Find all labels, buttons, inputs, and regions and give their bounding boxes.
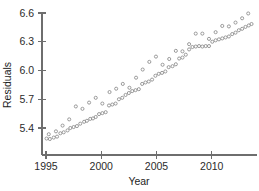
data-point bbox=[61, 124, 64, 127]
data-point bbox=[121, 96, 124, 99]
data-point bbox=[157, 72, 160, 75]
data-point bbox=[174, 49, 177, 52]
data-point bbox=[214, 39, 217, 42]
data-point bbox=[45, 137, 48, 140]
y-tick-label: 6.3 bbox=[19, 35, 34, 47]
data-point bbox=[181, 50, 184, 53]
data-point bbox=[52, 136, 55, 139]
data-point bbox=[104, 111, 107, 114]
data-point bbox=[128, 86, 131, 89]
data-point bbox=[154, 55, 157, 58]
data-point bbox=[211, 40, 214, 43]
data-point bbox=[214, 31, 217, 34]
y-tick-label: 5.4 bbox=[19, 122, 34, 134]
y-axis-title: Residuals bbox=[1, 62, 13, 108]
data-point bbox=[141, 82, 144, 85]
data-point bbox=[221, 24, 224, 27]
tick-labels-group: 5.45.76.06.36.61995200020052010 bbox=[19, 7, 223, 172]
data-point bbox=[59, 132, 62, 135]
data-point bbox=[108, 91, 111, 94]
data-point bbox=[224, 36, 227, 39]
data-point bbox=[241, 17, 244, 20]
y-tick-label: 6.0 bbox=[19, 64, 34, 76]
data-point bbox=[88, 101, 91, 104]
data-point bbox=[75, 125, 78, 128]
data-point bbox=[74, 105, 77, 108]
data-point bbox=[62, 131, 65, 134]
data-point bbox=[66, 129, 69, 132]
data-point bbox=[111, 103, 114, 106]
data-point bbox=[197, 45, 200, 48]
series-upper-band bbox=[47, 12, 250, 136]
x-tick-label: 2005 bbox=[145, 160, 169, 172]
x-axis-title: Year bbox=[128, 175, 150, 187]
axes-group bbox=[42, 12, 257, 155]
plot-canvas: 5.45.76.06.36.61995200020052010 Residual… bbox=[0, 0, 259, 191]
data-point bbox=[174, 63, 177, 66]
data-point bbox=[250, 22, 253, 25]
data-point bbox=[154, 74, 157, 77]
data-point bbox=[134, 89, 137, 92]
data-point bbox=[131, 90, 134, 93]
data-point bbox=[207, 45, 210, 48]
data-point bbox=[234, 31, 237, 34]
y-tick-label: 5.7 bbox=[19, 93, 34, 105]
data-point bbox=[201, 45, 204, 48]
data-point bbox=[231, 33, 234, 36]
data-point bbox=[178, 57, 181, 60]
data-point bbox=[184, 53, 187, 56]
scatter-plot-figure: 5.45.76.06.36.61995200020052010 Residual… bbox=[0, 0, 259, 191]
data-point bbox=[151, 78, 154, 81]
data-point bbox=[121, 82, 124, 85]
data-point bbox=[94, 96, 97, 99]
x-tick-label: 1995 bbox=[34, 160, 58, 172]
x-tick-label: 2010 bbox=[200, 160, 224, 172]
data-point bbox=[101, 112, 104, 115]
tick-marks-group bbox=[38, 13, 212, 159]
data-points-group bbox=[45, 12, 253, 141]
data-point bbox=[164, 70, 167, 73]
x-tick-label: 2000 bbox=[90, 160, 114, 172]
data-point bbox=[217, 38, 220, 41]
data-point bbox=[171, 65, 174, 68]
y-tick-label: 6.6 bbox=[19, 7, 34, 19]
data-point bbox=[167, 66, 170, 69]
data-point bbox=[194, 45, 197, 48]
data-point bbox=[68, 118, 71, 121]
data-point bbox=[181, 56, 184, 59]
data-point bbox=[201, 32, 204, 35]
data-point bbox=[79, 122, 82, 125]
data-point bbox=[227, 35, 230, 38]
data-point bbox=[54, 130, 57, 133]
data-point bbox=[115, 87, 118, 90]
data-point bbox=[241, 27, 244, 30]
data-point bbox=[221, 37, 224, 40]
data-point bbox=[101, 102, 104, 105]
data-point bbox=[194, 32, 197, 35]
data-point bbox=[204, 45, 207, 48]
data-point bbox=[124, 93, 127, 96]
data-point bbox=[237, 29, 240, 32]
data-point bbox=[69, 126, 72, 129]
data-point bbox=[147, 80, 150, 83]
data-point bbox=[188, 48, 191, 51]
data-point bbox=[72, 125, 75, 128]
data-point bbox=[160, 71, 163, 74]
data-point bbox=[114, 102, 117, 105]
data-point bbox=[207, 37, 210, 40]
data-point bbox=[117, 98, 120, 101]
data-point bbox=[137, 88, 140, 91]
data-point bbox=[144, 81, 147, 84]
data-point bbox=[188, 43, 191, 46]
data-point bbox=[56, 135, 59, 138]
data-point bbox=[141, 68, 144, 71]
data-point bbox=[168, 57, 171, 60]
data-point bbox=[247, 12, 250, 15]
data-point bbox=[47, 133, 50, 136]
data-point bbox=[127, 91, 130, 94]
data-point bbox=[135, 76, 138, 79]
data-point bbox=[161, 63, 164, 66]
data-point bbox=[81, 107, 84, 110]
series-lower-band bbox=[45, 22, 253, 140]
data-point bbox=[148, 60, 151, 63]
